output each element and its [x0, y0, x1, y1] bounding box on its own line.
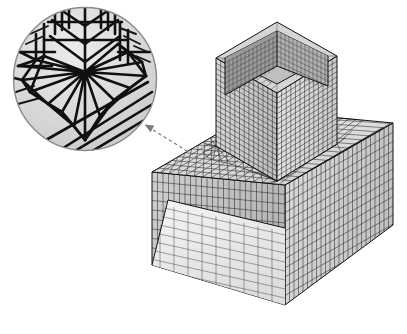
callout-leader: [145, 125, 199, 158]
mesh-figure-canvas: [0, 0, 407, 334]
model-box-with-branch: [152, 22, 393, 305]
mesh-figure: Finite element mesh of a hollow box with…: [0, 0, 407, 334]
callout-circle-detail: [14, 6, 159, 156]
